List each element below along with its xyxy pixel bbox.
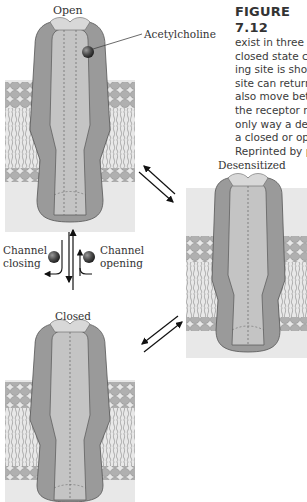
open-state-label: Open: [53, 4, 83, 17]
acetylcholine-molecule: [82, 46, 94, 58]
desensitized-state-label: Desensitized: [218, 159, 286, 171]
acetylcholine-label: Acetylcholine: [144, 28, 216, 40]
open-desensitized-arrows: [139, 166, 175, 202]
channel-opening-label: Channel opening: [100, 244, 144, 270]
closed-desensitized-arrows: [142, 316, 182, 352]
channel-closing-label: Channel closing: [3, 244, 47, 270]
acetylcholine-leaving: [48, 251, 60, 263]
open-state-panel: [5, 18, 142, 233]
open-closed-arrows: [45, 230, 95, 290]
desensitized-state-panel: [186, 174, 307, 359]
closed-state-label: Closed: [55, 310, 91, 322]
closed-state-panel: [5, 320, 135, 502]
acetylcholine-binding: [83, 251, 95, 263]
